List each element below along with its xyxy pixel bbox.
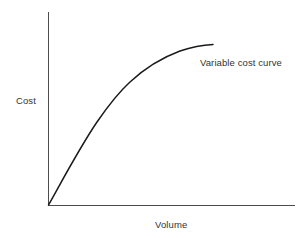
x-axis-label: Volume xyxy=(155,219,187,230)
y-axis-label: Cost xyxy=(16,95,36,106)
chart-plot-area xyxy=(0,0,306,238)
variable-cost-chart: Cost Volume Variable cost curve xyxy=(0,0,306,238)
variable-cost-curve-path xyxy=(49,45,214,206)
variable-cost-curve-label: Variable cost curve xyxy=(200,57,282,68)
